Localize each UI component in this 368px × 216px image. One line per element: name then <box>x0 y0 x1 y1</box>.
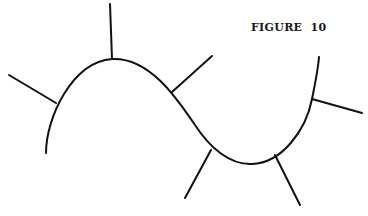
normal-top <box>110 4 112 59</box>
normal-lower-left <box>185 150 211 198</box>
normal-upper-right <box>172 56 212 92</box>
s-curve <box>46 57 319 164</box>
figure-canvas: FIGURE 10 <box>0 0 368 216</box>
normal-right <box>312 99 362 113</box>
figure-caption: FIGURE 10 <box>251 21 326 34</box>
normal-lower-right <box>275 155 300 205</box>
normal-lines <box>9 4 362 205</box>
normal-left <box>9 75 56 103</box>
